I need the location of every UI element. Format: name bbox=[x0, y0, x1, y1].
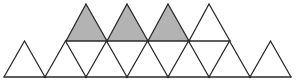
vertex-dot bbox=[167, 76, 169, 78]
vertex-dot bbox=[85, 76, 87, 78]
vertex-dot bbox=[44, 76, 46, 78]
shaded-triangle bbox=[148, 4, 189, 41]
triangle-edge bbox=[45, 41, 66, 77]
triangle-edge bbox=[271, 41, 292, 77]
triangle-edge bbox=[148, 41, 169, 77]
triangle-edge bbox=[66, 41, 87, 77]
triangle-edge bbox=[4, 41, 25, 77]
triangle-edge bbox=[107, 41, 128, 77]
vertex-dot bbox=[106, 40, 108, 42]
shaded-triangle bbox=[107, 4, 148, 41]
triangle-grid-figure bbox=[0, 0, 307, 82]
triangle-edge bbox=[209, 4, 230, 41]
vertex-dot bbox=[126, 76, 128, 78]
vertex-dot bbox=[188, 40, 190, 42]
triangle-edge bbox=[86, 41, 107, 77]
vertex-dot bbox=[147, 40, 149, 42]
grid-lines bbox=[4, 4, 291, 78]
triangle-edge bbox=[189, 41, 210, 77]
triangle-edge bbox=[230, 41, 251, 77]
triangle-edge bbox=[189, 4, 209, 41]
shaded-triangle bbox=[66, 4, 107, 41]
triangle-edge bbox=[250, 41, 271, 77]
vertex-dot bbox=[249, 76, 251, 78]
triangle-edge bbox=[25, 41, 46, 77]
triangle-edge bbox=[127, 41, 148, 77]
triangle-edge bbox=[168, 41, 189, 77]
triangle-edge bbox=[209, 41, 230, 77]
vertex-dot bbox=[208, 76, 210, 78]
